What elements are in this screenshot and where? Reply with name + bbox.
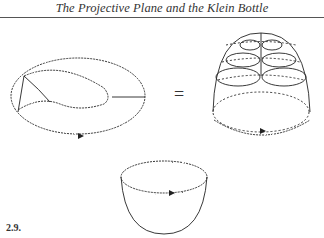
figure-label: 2.9.: [6, 222, 21, 233]
figure-diagram: =: [0, 0, 324, 238]
mobius-band-diagram: [11, 58, 145, 139]
hemisphere-diagram: [121, 161, 207, 234]
equals-sign: =: [174, 84, 184, 104]
dome-diagram: [213, 33, 310, 135]
